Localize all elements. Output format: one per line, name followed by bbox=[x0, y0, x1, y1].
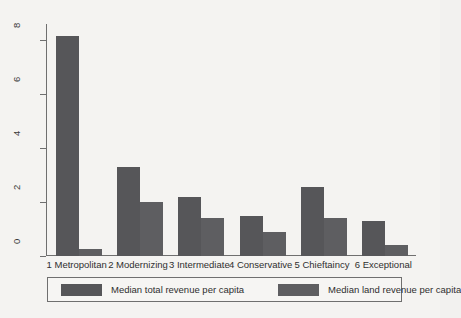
plot-area bbox=[46, 24, 414, 256]
legend-swatch-total bbox=[61, 284, 102, 296]
bar-total-revenue bbox=[362, 221, 385, 256]
legend-swatch-land bbox=[278, 284, 319, 296]
bar-land-revenue bbox=[201, 218, 224, 256]
y-tick-label: 8 bbox=[12, 23, 22, 57]
bar-land-revenue bbox=[385, 245, 408, 256]
legend-entry-land: Median land revenue per capita bbox=[278, 278, 461, 301]
bar-land-revenue bbox=[263, 232, 286, 256]
bar-land-revenue bbox=[324, 218, 347, 256]
legend-entry-total: Median total revenue per capita bbox=[61, 278, 244, 301]
legend-label-land: Median land revenue per capita bbox=[328, 284, 461, 295]
y-tick-label: 2 bbox=[12, 185, 22, 219]
bar-group bbox=[362, 24, 408, 256]
bar-total-revenue bbox=[117, 167, 140, 256]
bar-total-revenue bbox=[301, 187, 324, 256]
y-tick-mark bbox=[40, 256, 46, 257]
bar-total-revenue bbox=[240, 216, 263, 256]
bar-land-revenue bbox=[79, 249, 102, 256]
bar-group bbox=[56, 24, 102, 256]
y-tick-label: 0 bbox=[12, 239, 22, 273]
y-tick-label: 6 bbox=[12, 77, 22, 111]
legend-label-total: Median total revenue per capita bbox=[111, 284, 244, 295]
category-label: 6 Exceptional bbox=[347, 259, 420, 271]
bar-group bbox=[178, 24, 224, 256]
bar-land-revenue bbox=[140, 202, 163, 256]
chart-legend: Median total revenue per capita Median l… bbox=[47, 277, 402, 302]
bar-group bbox=[301, 24, 347, 256]
bar-group bbox=[240, 24, 286, 256]
bar-group bbox=[117, 24, 163, 256]
bar-total-revenue bbox=[56, 36, 79, 256]
bar-total-revenue bbox=[178, 197, 201, 256]
y-tick-label: 4 bbox=[12, 131, 22, 165]
